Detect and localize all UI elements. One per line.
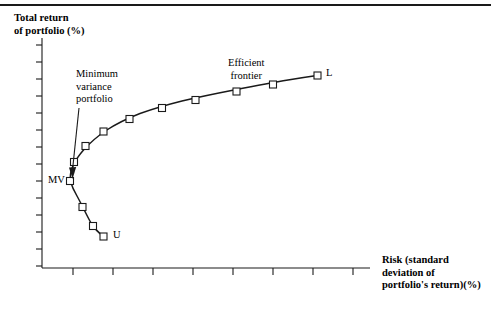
annotation-ef-line-1: Efficient (228, 57, 265, 68)
figure-canvas: Total returnof portfolio (%) Risk (stand… (0, 0, 491, 310)
y-axis-title: Total returnof portfolio (%) (14, 12, 85, 37)
point-label-mv: MV (48, 174, 65, 185)
marker-point-12 (270, 81, 277, 88)
marker-point-11 (233, 88, 240, 95)
annotation-ef-line-2: frontier (231, 70, 263, 81)
x-axis-ticks (73, 268, 353, 275)
y-axis-title-line-1: Total return (14, 12, 69, 23)
marker-point-3 (79, 204, 86, 211)
annotation-mvp-line-3: portfolio (76, 93, 113, 104)
marker-L (314, 72, 321, 79)
marker-point-10 (192, 97, 199, 104)
minimum-variance-arrow (69, 108, 79, 179)
annotation-minimum-variance-portfolio: Minimumvarianceportfolio (76, 68, 118, 106)
marker-U (100, 233, 107, 240)
y-axis-title-line-2: of portfolio (%) (14, 25, 85, 36)
x-axis-title-line-3: portfolio's return)(%) (382, 279, 481, 290)
y-axis-ticks (36, 45, 42, 266)
annotation-mvp-line-2: variance (76, 81, 112, 92)
point-label-u: U (113, 229, 121, 240)
annotation-efficient-frontier: Efficientfrontier (228, 57, 265, 82)
x-axis-title-line-1: Risk (standard (382, 254, 449, 265)
point-label-l: L (326, 67, 332, 78)
marker-point-7 (100, 128, 107, 135)
marker-point-8 (126, 116, 133, 123)
x-axis-title: Risk (standarddeviation ofportfolio's re… (382, 254, 481, 292)
marker-point-2 (90, 223, 97, 230)
marker-point-6 (82, 143, 89, 150)
annotation-mvp-line-1: Minimum (76, 68, 118, 79)
marker-point-9 (159, 105, 166, 112)
x-axis-title-line-2: deviation of (382, 267, 435, 278)
